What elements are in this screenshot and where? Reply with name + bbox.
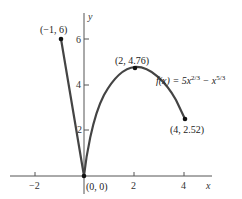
x-tick-label: −2 — [29, 180, 40, 191]
y-tick-label: 4 — [76, 79, 81, 90]
point-marker — [133, 66, 138, 71]
x-tick-label: 4 — [181, 180, 186, 191]
function-label: f(x) = 5x2/3 − x5/3 — [156, 74, 226, 87]
point-marker — [59, 37, 64, 42]
function-label-mid: − x — [200, 75, 217, 86]
x-tick-label: 2 — [131, 180, 136, 191]
x-axis-label: x — [205, 180, 211, 191]
point-marker — [82, 174, 87, 179]
function-graph: −2 2 4 x 2 4 6 y (−1, 6) (2, 4.76) (4, 2… — [0, 0, 242, 199]
point-label: (2, 4.76) — [115, 55, 149, 67]
point-label: (0, 0) — [86, 181, 108, 193]
point-label: (4, 2.52) — [170, 124, 204, 136]
y-tick-label: 6 — [76, 34, 81, 45]
point-label: (−1, 6) — [40, 24, 67, 36]
y-axis-label: y — [87, 11, 93, 22]
point-marker — [183, 117, 188, 122]
function-label-lhs: f(x) = 5x — [156, 75, 192, 87]
function-label-exp2: 5/3 — [216, 74, 225, 82]
